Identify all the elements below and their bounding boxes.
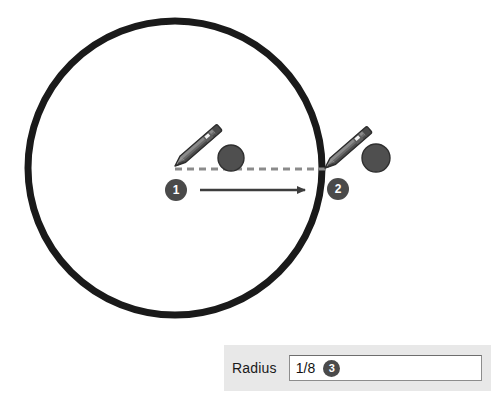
radius-input[interactable]: 1/8 3 (289, 355, 482, 381)
handle-dot-end[interactable] (362, 144, 390, 172)
radius-input-value: 1/8 (296, 361, 315, 375)
step-marker-2: 2 (327, 178, 349, 200)
radius-control-panel: Radius 1/8 3 (224, 345, 491, 391)
handle-dot-start[interactable] (218, 145, 244, 171)
step-marker-1: 1 (165, 179, 187, 201)
diagram-canvas: 1 2 Radius 1/8 3 (0, 0, 491, 405)
radius-field-label: Radius (232, 360, 277, 376)
step-marker-1-label: 1 (173, 183, 180, 197)
step-marker-3: 3 (323, 360, 340, 377)
pencil-start-icon (172, 124, 222, 169)
step-marker-2-label: 2 (335, 182, 342, 196)
